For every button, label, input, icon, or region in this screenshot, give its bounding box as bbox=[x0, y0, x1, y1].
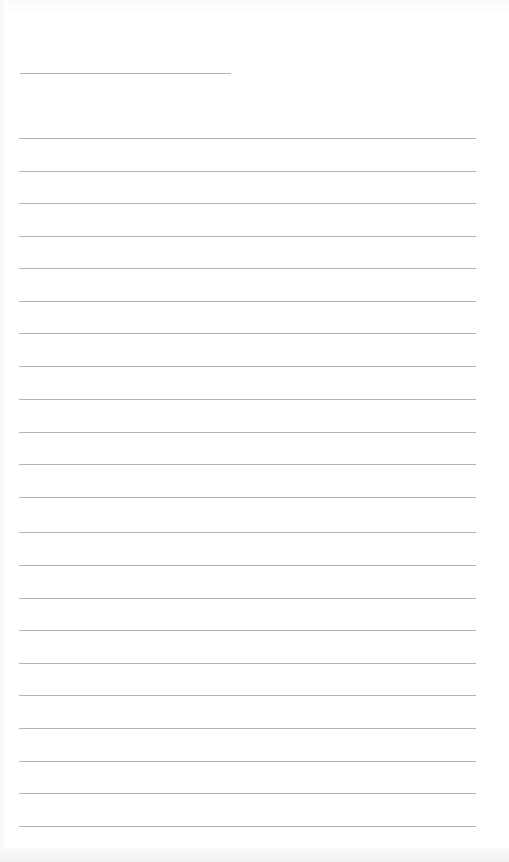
ruled-line bbox=[19, 630, 476, 631]
top-edge-shadow bbox=[0, 0, 509, 14]
ruled-line bbox=[19, 301, 476, 302]
ruled-line bbox=[19, 793, 476, 794]
ruled-line bbox=[19, 695, 476, 696]
left-edge-shadow bbox=[0, 0, 8, 862]
ruled-line bbox=[19, 432, 476, 433]
ruled-line bbox=[19, 728, 476, 729]
ruled-line bbox=[19, 663, 476, 664]
ruled-line bbox=[19, 171, 476, 172]
ruled-line bbox=[19, 464, 476, 465]
bottom-edge-shadow bbox=[0, 848, 509, 862]
ruled-line bbox=[19, 268, 476, 269]
ruled-line bbox=[19, 826, 476, 827]
title-line bbox=[20, 73, 231, 74]
ruled-line bbox=[19, 565, 476, 566]
ruled-line bbox=[19, 333, 476, 334]
ruled-line bbox=[19, 366, 476, 367]
ruled-line bbox=[19, 203, 476, 204]
ruled-line bbox=[19, 497, 476, 498]
ruled-line bbox=[19, 236, 476, 237]
ruled-line bbox=[19, 761, 476, 762]
ruled-line bbox=[19, 532, 476, 533]
lined-paper-page bbox=[0, 0, 509, 862]
ruled-line bbox=[19, 399, 476, 400]
ruled-line bbox=[19, 138, 476, 139]
ruled-line bbox=[19, 598, 476, 599]
